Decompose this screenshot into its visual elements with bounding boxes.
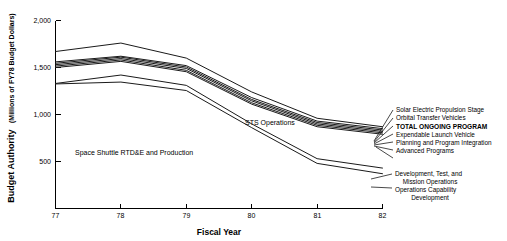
- leader-line-operations-capability-development: [371, 187, 392, 188]
- y-tick-label-2000: 2,000: [33, 17, 51, 24]
- y-axis-title-main: Budget Authority (Millions of FY78 Budge…: [6, 13, 16, 202]
- legend-label-expendable-launch-vehicle[interactable]: Expendable Launch Vehicle: [396, 131, 475, 139]
- y-axis-title-text: Budget Authority: [6, 130, 16, 203]
- y-axis-title-units: (Millions of FY78 Budget Dollars): [8, 13, 16, 123]
- legend-label-development-test-and[interactable]: Development, Test, and: [395, 170, 462, 178]
- leader-line-development-test-mission-operations: [371, 174, 392, 179]
- leader-line-total-ongoing-program: [374, 126, 393, 143]
- leader-line-advanced-programs-lower: [376, 147, 393, 158]
- axis-lines: [56, 21, 383, 209]
- legend-label-orbital-transfer-vehicles[interactable]: Orbital Transfer Vehicles: [396, 114, 466, 121]
- y-tick-label-500: 500: [39, 158, 51, 165]
- y-axis-title: Budget Authority (Millions of FY78 Budge…: [6, 13, 16, 202]
- series-line-total-ongoing-program: [56, 57, 383, 130]
- x-tick-label-77: 77: [52, 212, 60, 219]
- annotation-sts-operations: STS Operations: [245, 119, 295, 127]
- line-chart-svg: 2,000 1,500 1,000 500 77 78 79 80 81 82 …: [0, 0, 507, 241]
- chart-figure: 2,000 1,500 1,000 500 77 78 79 80 81 82 …: [0, 0, 507, 241]
- axes: [56, 21, 383, 209]
- x-tick-label-79: 79: [183, 212, 191, 219]
- legend-label-planning-and-program-integration[interactable]: Planning and Program Integration: [396, 139, 492, 147]
- legend-lower-cluster: Development, Test, and Mission Operation…: [395, 170, 462, 202]
- x-tick-label-82: 82: [379, 212, 387, 219]
- legend-upper-cluster: Solar Electric Propulsion Stage Orbital …: [396, 106, 492, 155]
- x-axis-title: Fiscal Year: [197, 227, 242, 237]
- y-tick-label-1000: 1,000: [33, 111, 51, 118]
- legend-label-advanced-programs[interactable]: Advanced Programs: [396, 147, 454, 155]
- series-line-operations-capability-development: [56, 82, 383, 174]
- x-tick-label-80: 80: [248, 212, 256, 219]
- legend-leader-lines-lower: [371, 174, 392, 188]
- legend-label-operations-capability[interactable]: Operations Capability: [395, 186, 457, 194]
- y-tick-label-1500: 1,500: [33, 64, 51, 71]
- legend-label-solar-electric-propulsion-stage[interactable]: Solar Electric Propulsion Stage: [396, 106, 485, 114]
- series-line-orbital-transfer-vehicles: [56, 56, 383, 128]
- leader-line-orbital-transfer-vehicles: [374, 118, 393, 142]
- legend-label-development: Development: [411, 194, 449, 202]
- x-tick-label-81: 81: [314, 212, 322, 219]
- annotation-space-shuttle: Space Shuttle RTD&E and Production: [75, 149, 193, 157]
- x-axis-ticks: 77 78 79 80 81 82: [52, 204, 387, 220]
- y-axis-ticks: 2,000 1,500 1,000 500: [33, 17, 60, 165]
- x-tick-label-78: 78: [117, 212, 125, 219]
- legend-label-mission-operations: Mission Operations: [403, 178, 458, 186]
- legend-label-total-ongoing-program[interactable]: TOTAL ONGOING PROGRAM: [396, 123, 488, 130]
- series-line-planning-and-program-integration: [56, 60, 383, 133]
